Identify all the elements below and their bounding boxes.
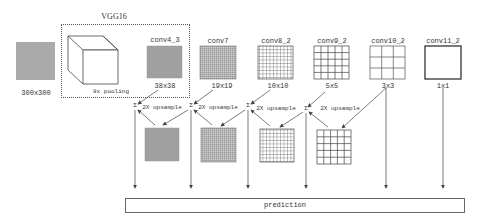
diagram-graphics <box>0 0 479 224</box>
conv10-2-map <box>370 46 405 79</box>
conv8-2-map <box>258 46 293 79</box>
conv11-2-map <box>425 46 461 79</box>
upsampled-map-4 <box>317 130 351 164</box>
cube-icon <box>68 36 118 84</box>
upsampled-map-3 <box>260 129 294 162</box>
upsampled-map-2 <box>201 128 236 162</box>
conv4-3-map <box>147 46 182 78</box>
conv9-2-map <box>314 46 349 79</box>
conv7-map <box>200 46 236 79</box>
upsampled-map-1 <box>145 128 179 161</box>
